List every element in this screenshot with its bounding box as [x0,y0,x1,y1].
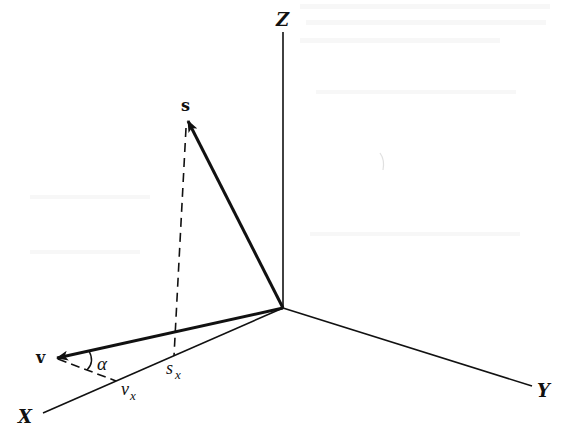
diagram-canvas: Z Y X s v α s x v x [0,0,563,438]
vx-label: v x [121,379,136,403]
x-axis-label: X [17,406,33,427]
vector-s-label: s [181,96,190,115]
sx-label: s x [166,358,181,382]
vx-subscript: x [129,388,136,403]
vector-projection-diagram: Z Y X s v α s x v x [0,0,563,438]
angle-arc-alpha [87,351,92,370]
x-axis [43,308,283,413]
vector-v [57,308,283,358]
vector-v-label: v [35,348,46,367]
z-axis-label: Z [275,9,290,30]
projection-s-dashed [174,128,186,356]
y-axis [283,308,532,386]
angle-alpha-label: α [97,353,108,374]
sx-main: s [166,358,173,378]
sx-subscript: x [174,367,181,382]
vector-s [188,121,283,308]
bleed-through-texture [30,4,550,254]
vx-main: v [121,379,129,399]
y-axis-label: Y [537,380,552,401]
